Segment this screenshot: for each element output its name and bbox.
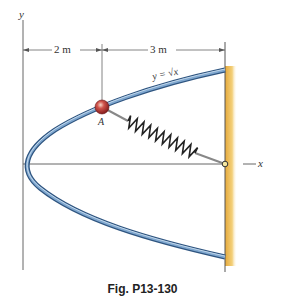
y-axis-label: y — [19, 8, 24, 20]
arrow-icon — [102, 48, 108, 52]
dimension-left: 2 m — [54, 43, 71, 55]
x-axis-label: x — [258, 157, 263, 169]
collar-a — [95, 100, 109, 114]
wall-pin — [222, 161, 228, 167]
dimension-right: 3 m — [150, 43, 167, 55]
figure-canvas — [0, 0, 285, 304]
spring-coil — [128, 116, 198, 157]
arrow-icon — [219, 48, 225, 52]
point-a-label: A — [98, 116, 104, 127]
figure-caption: Fig. P13-130 — [0, 282, 285, 296]
arrow-icon — [96, 48, 102, 52]
arrow-icon — [23, 48, 29, 52]
